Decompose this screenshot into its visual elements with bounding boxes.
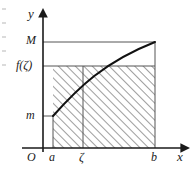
y-tick-label-m: m (26, 108, 35, 123)
hatched-region (53, 66, 155, 148)
y-tick-label-M: M (26, 33, 36, 48)
x-axis-label: x (177, 149, 183, 165)
figure-container: y x O M f(ζ) m a ζ b (0, 0, 192, 172)
x-tick-label-zeta: ζ (79, 150, 84, 165)
x-tick-label-a: a (49, 150, 55, 165)
y-axis-label: y (28, 6, 34, 22)
origin-label: O (27, 150, 36, 165)
x-tick-label-b: b (151, 150, 157, 165)
scan-artifacts (2, 8, 6, 66)
plot-svg (0, 0, 192, 172)
y-tick-label-f-zeta: f(ζ) (16, 58, 32, 73)
